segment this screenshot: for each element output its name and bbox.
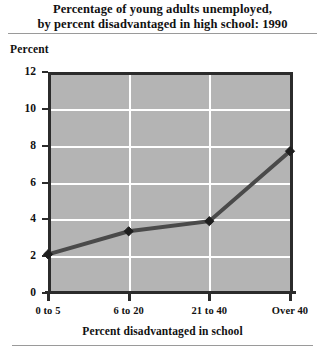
- x-axis-title: Percent disadvantaged in school: [0, 325, 325, 337]
- data-point-marker: [43, 250, 52, 259]
- data-series-layer: [0, 0, 325, 358]
- footer-divider: [12, 345, 313, 346]
- data-point-marker: [124, 227, 133, 236]
- chart-plot: 0246810120 to 56 to 2021 to 40Over 40: [0, 0, 325, 358]
- series-line: [48, 151, 290, 254]
